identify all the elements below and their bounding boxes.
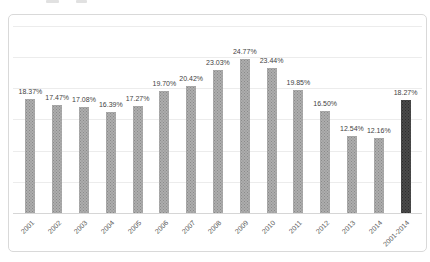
bar-slot: 17.47%	[44, 15, 71, 214]
category-slot: 2002	[44, 215, 71, 251]
category-label-2013: 2013	[341, 219, 357, 235]
category-slot: 2006	[151, 215, 178, 251]
category-label-2011: 2011	[288, 219, 304, 235]
value-label-2010: 23.44%	[260, 57, 284, 64]
value-label-2009: 24.77%	[233, 48, 257, 55]
category-slot: 2013	[339, 215, 366, 251]
category-slot: 2004	[97, 215, 124, 251]
bar-slot: 23.03%	[205, 15, 232, 214]
bar-2004	[106, 112, 116, 214]
value-label-2007: 20.42%	[179, 75, 203, 82]
category-label-2002: 2002	[46, 219, 62, 235]
category-slot: 2011	[285, 215, 312, 251]
value-label-2012: 16.50%	[313, 100, 337, 107]
bar-2001-2014	[401, 100, 411, 214]
bar-2003	[79, 107, 89, 214]
category-label-2001: 2001	[19, 219, 35, 235]
bar-slot: 20.42%	[178, 15, 205, 214]
category-label-2012: 2012	[314, 219, 330, 235]
bar-slot: 16.39%	[97, 15, 124, 214]
bar-slot: 12.16%	[365, 15, 392, 214]
category-slot: 2012	[312, 215, 339, 251]
bar-2011	[293, 90, 303, 214]
category-slot: 2009	[231, 215, 258, 251]
bar-2006	[159, 91, 169, 214]
bar-slot: 24.77%	[231, 15, 258, 214]
category-label-2014: 2014	[368, 219, 384, 235]
value-label-2004: 16.39%	[99, 101, 123, 108]
category-slot: 2008	[205, 215, 232, 251]
bar-2009	[240, 59, 250, 214]
bar-2001	[25, 99, 35, 214]
value-label-2001: 18.37%	[19, 88, 43, 95]
bar-slot: 23.44%	[258, 15, 285, 214]
category-slot: 2003	[71, 215, 98, 251]
cropped-text-speck	[76, 0, 87, 3]
category-label-2006: 2006	[153, 219, 169, 235]
plot-area: 18.37%17.47%17.08%16.39%17.27%19.70%20.4…	[17, 15, 419, 214]
bar-slot: 18.27%	[392, 15, 419, 214]
bar-2013	[347, 136, 357, 214]
bar-2007	[186, 86, 196, 214]
category-slot: 2010	[258, 215, 285, 251]
category-slot: 2001	[17, 215, 44, 251]
bar-2012	[320, 111, 330, 214]
bar-slot: 12.54%	[339, 15, 366, 214]
category-slot: 2005	[124, 215, 151, 251]
bar-slot: 17.08%	[71, 15, 98, 214]
category-label-2009: 2009	[234, 219, 250, 235]
bar-2002	[52, 105, 62, 214]
value-label-2002: 17.47%	[45, 94, 69, 101]
value-label-2006: 19.70%	[153, 80, 177, 87]
cropped-text-speck	[46, 0, 59, 3]
x-axis-labels: 2001200220032004200520062007200820092010…	[17, 215, 419, 251]
category-label-2007: 2007	[180, 219, 196, 235]
value-label-2005: 17.27%	[126, 95, 150, 102]
category-label-2005: 2005	[127, 219, 143, 235]
category-label-2008: 2008	[207, 219, 223, 235]
bar-2005	[133, 106, 143, 214]
bar-2010	[267, 68, 277, 215]
bar-slot: 16.50%	[312, 15, 339, 214]
value-label-2003: 17.08%	[72, 96, 96, 103]
value-label-2011: 19.85%	[286, 79, 310, 86]
bar-slot: 19.85%	[285, 15, 312, 214]
value-label-2001-2014: 18.27%	[394, 89, 418, 96]
x-axis-line	[13, 213, 422, 214]
category-label-2010: 2010	[261, 219, 277, 235]
bar-2014	[374, 138, 384, 214]
category-slot: 2001-2014	[392, 215, 419, 251]
bar-slot: 19.70%	[151, 15, 178, 214]
category-slot: 2007	[178, 215, 205, 251]
bar-2008	[213, 70, 223, 214]
value-label-2013: 12.54%	[340, 125, 364, 132]
value-label-2008: 23.03%	[206, 59, 230, 66]
category-label-2003: 2003	[73, 219, 89, 235]
bar-slot: 17.27%	[124, 15, 151, 214]
chart-frame: 18.37%17.47%17.08%16.39%17.27%19.70%20.4…	[8, 14, 427, 252]
category-label-2004: 2004	[100, 219, 116, 235]
bar-slot: 18.37%	[17, 15, 44, 214]
value-label-2014: 12.16%	[367, 127, 391, 134]
